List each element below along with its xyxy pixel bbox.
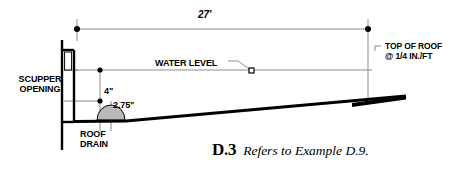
parapet-wall — [62, 40, 74, 150]
scupper-opening-label-line1: SCUPPER — [11, 74, 69, 84]
water-level-leader-dot — [249, 68, 254, 73]
scupper-opening-label-line2: OPENING — [11, 84, 69, 94]
figure-caption-text: Refers to Example D.9. — [243, 143, 369, 158]
figure-number: D.3 — [212, 140, 236, 159]
span-right-dot — [365, 26, 371, 32]
scupper-opening-box — [65, 52, 72, 70]
top-of-roof-label-line2: @ 1/4 IN./FT — [385, 52, 442, 62]
roof-drain-label: ROOF DRAIN — [80, 129, 108, 149]
roof-drain-label-line1: ROOF — [80, 129, 108, 139]
span-dimension-label: 27' — [198, 9, 211, 20]
roof-drainage-figure: 27' SCUPPER OPENING WATER LEVEL 4" 2.75"… — [0, 0, 464, 172]
roof-drain-label-line2: DRAIN — [80, 139, 108, 149]
drain-dimension-label: 2.75" — [113, 100, 134, 110]
head-bottom-dot — [97, 98, 102, 103]
top-of-roof-leader — [375, 46, 381, 51]
figure-caption: D.3Refers to Example D.9. — [212, 140, 369, 160]
head-dimension-label: 4" — [104, 86, 113, 96]
span-left-dot — [74, 26, 80, 32]
top-of-roof-label: TOP OF ROOF @ 1/4 IN./FT — [385, 42, 442, 61]
head-top-dot — [97, 67, 102, 72]
scupper-opening-label: SCUPPER OPENING — [11, 74, 69, 94]
water-level-label: WATER LEVEL — [155, 58, 217, 68]
